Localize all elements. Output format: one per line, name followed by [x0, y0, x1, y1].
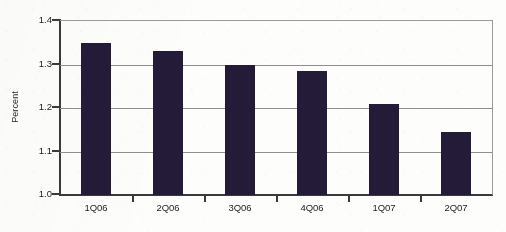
y-axis-tick-mark	[52, 193, 60, 195]
gridline	[60, 152, 492, 153]
bar	[297, 71, 327, 195]
y-axis-tick-labels: 1.01.11.21.31.4	[26, 0, 52, 232]
y-axis-tick-label: 1.3	[26, 59, 52, 69]
bar	[153, 51, 183, 195]
y-axis-tick-label: 1.4	[26, 15, 52, 25]
x-axis-tick-label: 2Q07	[426, 203, 486, 213]
x-axis-tick-mark	[420, 196, 422, 202]
gridline	[60, 65, 492, 66]
x-axis-tick-label: 1Q06	[66, 203, 126, 213]
gridline	[60, 108, 492, 109]
x-axis-tick-mark	[276, 196, 278, 202]
x-axis-tick-mark	[204, 196, 206, 202]
x-axis-tick-label: 3Q06	[210, 203, 270, 213]
plot-area	[60, 20, 493, 195]
x-axis-tick-label: 2Q06	[138, 203, 198, 213]
x-axis-tick-label: 1Q07	[354, 203, 414, 213]
x-axis-tick-mark	[132, 196, 134, 202]
y-axis-title: Percent	[8, 20, 22, 194]
y-axis-tick-mark	[52, 106, 60, 108]
bar	[369, 104, 399, 195]
y-axis-tick-label: 1.2	[26, 102, 52, 112]
x-axis-tick-mark	[348, 196, 350, 202]
bar	[441, 132, 471, 195]
x-axis-tick-label: 4Q06	[282, 203, 342, 213]
y-axis-tick-mark	[52, 150, 60, 152]
y-axis-tick-mark	[52, 63, 60, 65]
y-axis-tick-label: 1.1	[26, 146, 52, 156]
bar	[81, 43, 111, 195]
bar	[225, 65, 255, 196]
y-axis-tick-label: 1.0	[26, 189, 52, 199]
y-axis-tick-mark	[52, 19, 60, 21]
bar-chart-figure: Percent 1.01.11.21.31.4 1Q062Q063Q064Q06…	[0, 0, 506, 232]
